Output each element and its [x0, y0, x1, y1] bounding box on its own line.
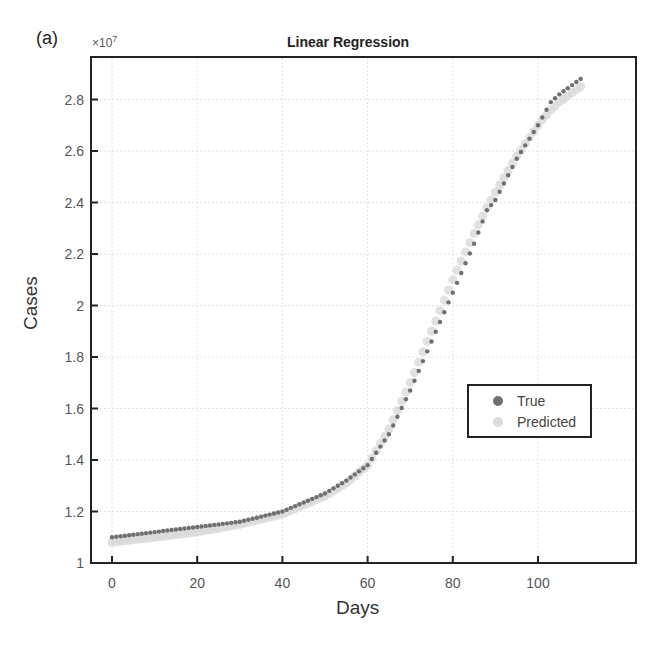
svg-text:2.8: 2.8	[65, 92, 85, 108]
data-series	[108, 77, 586, 547]
svg-text:1: 1	[76, 555, 84, 571]
x-axis-label: Days	[336, 597, 379, 619]
chart-title: Linear Regression	[287, 34, 487, 50]
svg-text:2: 2	[76, 298, 84, 314]
y-axis-label: Cases	[20, 276, 42, 330]
grid-lines	[92, 58, 635, 563]
svg-text:20: 20	[189, 575, 205, 591]
legend-label-predicted: Predicted	[517, 414, 576, 430]
svg-text:60: 60	[360, 575, 376, 591]
svg-text:1.2: 1.2	[65, 504, 85, 520]
svg-text:80: 80	[445, 575, 461, 591]
svg-text:100: 100	[526, 575, 550, 591]
exponent-base: ×10	[92, 36, 112, 50]
svg-text:1.8: 1.8	[65, 349, 85, 365]
svg-text:1.4: 1.4	[65, 452, 85, 468]
svg-text:2.2: 2.2	[65, 246, 85, 262]
legend: True Predicted	[467, 384, 592, 438]
legend-item-predicted: Predicted	[469, 412, 576, 432]
y-axis-exponent: ×107	[92, 34, 117, 50]
svg-text:1.6: 1.6	[65, 401, 85, 417]
chart-canvas: 02040608010011.21.41.61.822.22.42.62.8	[0, 0, 672, 649]
svg-text:2.4: 2.4	[65, 195, 85, 211]
legend-marker-true-icon	[493, 396, 503, 406]
legend-label-true: True	[517, 393, 545, 409]
exponent-power: 7	[112, 34, 117, 44]
panel-label: (a)	[36, 28, 58, 49]
plot-frame	[91, 57, 636, 563]
svg-text:2.6: 2.6	[65, 143, 85, 159]
legend-marker-predicted-icon	[493, 417, 503, 427]
svg-text:0: 0	[108, 575, 116, 591]
svg-text:40: 40	[275, 575, 291, 591]
axis-ticks: 02040608010011.21.41.61.822.22.42.62.8	[65, 92, 550, 592]
legend-item-true: True	[469, 391, 545, 411]
